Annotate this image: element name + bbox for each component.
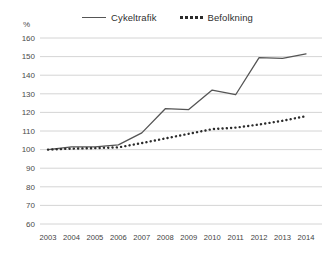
- y-axis-tick-labels: 60708090100110120130140150160: [22, 34, 36, 229]
- x-axis-tick-label: 2014: [298, 233, 315, 242]
- x-axis-tick-label: 2008: [157, 233, 174, 242]
- series-line-cykeltrafik: [48, 54, 306, 150]
- gridlines-group: [40, 38, 322, 224]
- y-axis-tick-label: 60: [26, 220, 35, 229]
- y-axis-tick-label: 70: [26, 201, 35, 210]
- x-axis-tick-label: 2013: [274, 233, 291, 242]
- y-axis-tick-label: 110: [22, 127, 35, 136]
- x-axis-tick-label: 2012: [251, 233, 268, 242]
- y-axis-tick-label: 100: [22, 145, 36, 154]
- x-axis-tick-label: 2010: [204, 233, 221, 242]
- x-axis-tick-labels: 2003200420052006200720082009201020112012…: [40, 233, 315, 242]
- x-axis-tick-label: 2007: [133, 233, 150, 242]
- x-axis-tick-label: 2006: [110, 233, 127, 242]
- chart-container: Cykeltrafik Befolkning % 607080901001101…: [0, 0, 335, 253]
- y-axis-tick-label: 80: [26, 183, 35, 192]
- y-axis-tick-label: 150: [22, 52, 36, 61]
- x-axis-tick-label: 2004: [63, 233, 80, 242]
- chart-plot-area: 60708090100110120130140150160 2003200420…: [0, 0, 335, 253]
- y-axis-tick-label: 120: [22, 108, 36, 117]
- x-axis-tick-label: 2011: [227, 233, 243, 242]
- y-axis-tick-label: 140: [22, 71, 36, 80]
- y-axis-tick-label: 90: [26, 164, 35, 173]
- data-series-group: [48, 54, 306, 150]
- y-axis-tick-label: 130: [22, 90, 36, 99]
- x-axis-tick-label: 2009: [180, 233, 197, 242]
- y-axis-tick-label: 160: [22, 34, 36, 43]
- series-line-befolkning: [48, 116, 306, 149]
- x-axis-tick-label: 2005: [86, 233, 103, 242]
- x-axis-tick-label: 2003: [40, 233, 57, 242]
